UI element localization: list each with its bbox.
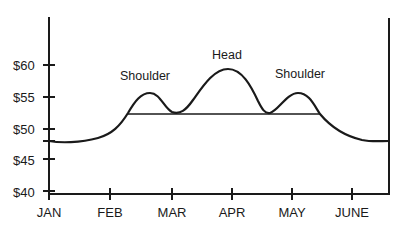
head-label: Head bbox=[212, 48, 242, 62]
left-shoulder-label: Shoulder bbox=[120, 69, 170, 83]
x-label-mar: MAR bbox=[158, 205, 187, 220]
x-label-june: JUNE bbox=[335, 205, 369, 220]
y-label-55: $55 bbox=[13, 90, 35, 105]
x-label-may: MAY bbox=[278, 205, 306, 220]
y-label-50: $50 bbox=[13, 122, 35, 137]
head-and-shoulders-chart: $60 $55 $50 $45 $40 JAN FEB MAR APR MAY … bbox=[0, 0, 403, 232]
y-axis-labels: $60 $55 $50 $45 $40 bbox=[13, 58, 35, 200]
y-label-60: $60 bbox=[13, 58, 35, 73]
right-shoulder-label: Shoulder bbox=[275, 67, 325, 81]
x-label-apr: APR bbox=[219, 205, 246, 220]
y-label-40: $40 bbox=[13, 185, 35, 200]
x-axis-labels: JAN FEB MAR APR MAY JUNE bbox=[37, 205, 370, 220]
x-label-jan: JAN bbox=[37, 205, 62, 220]
price-line bbox=[49, 69, 389, 142]
y-label-45: $45 bbox=[13, 153, 35, 168]
x-label-feb: FEB bbox=[97, 205, 122, 220]
